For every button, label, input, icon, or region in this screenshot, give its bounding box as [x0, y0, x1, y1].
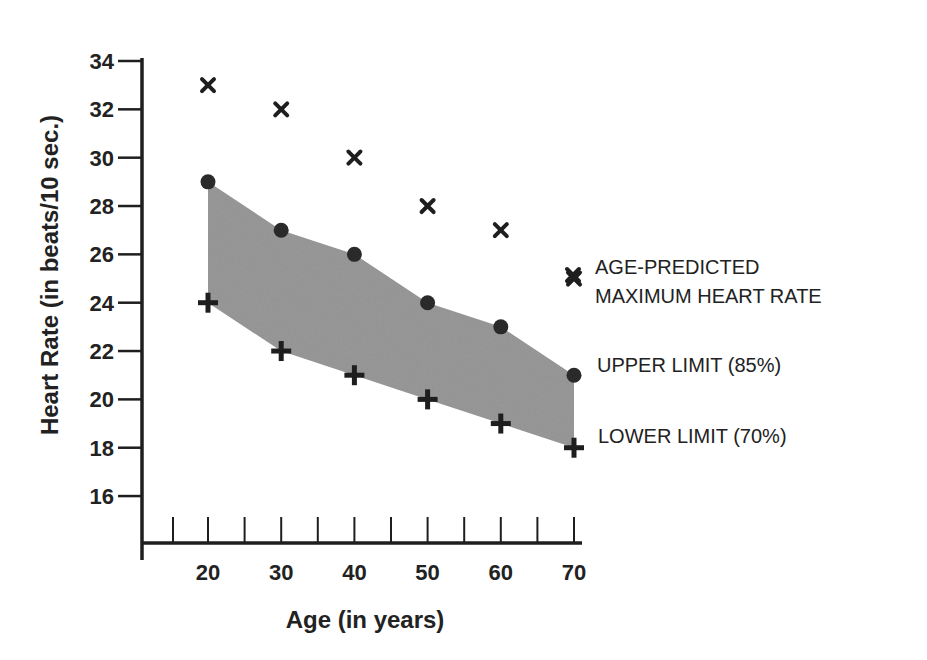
legend-upper-limit: UPPER LIMIT (85%) [597, 354, 781, 376]
y-tick-label: 26 [90, 242, 114, 267]
legend: AGE-PREDICTED MAXIMUM HEART RATE UPPER L… [567, 256, 822, 447]
x-tick-label: 60 [489, 560, 513, 585]
max-hr-x-marker [275, 103, 287, 115]
y-tick-label: 16 [90, 484, 114, 509]
y-tick-label: 28 [90, 194, 114, 219]
max-hr-x-marker [422, 200, 434, 212]
y-tick-label: 20 [90, 387, 114, 412]
y-tick-label: 32 [90, 97, 114, 122]
max-hr-x-marker [202, 79, 214, 91]
x-axis-title: Age (in years) [286, 606, 445, 633]
legend-max-line1: AGE-PREDICTED [595, 256, 759, 278]
y-tick-label: 18 [90, 436, 114, 461]
x-tick-label: 70 [562, 560, 586, 585]
upper-limit-dot-marker [420, 295, 435, 310]
y-tick-label: 24 [90, 291, 115, 316]
upper-limit-dot-marker [347, 247, 362, 262]
y-tick-label: 34 [90, 49, 115, 74]
max-hr-x-marker [495, 224, 507, 236]
x-tick-label: 50 [415, 560, 439, 585]
max-hr-x-marker [348, 152, 360, 164]
upper-limit-dot-marker [201, 174, 216, 189]
upper-limit-dot-marker [493, 319, 508, 334]
upper-limit-dot-marker [274, 223, 289, 238]
y-axis-title: Heart Rate (in beats/10 sec.) [36, 115, 63, 435]
heart-rate-chart: 16182022242628303234203040506070 AGE-PRE… [0, 0, 927, 660]
x-tick-label: 30 [269, 560, 293, 585]
legend-lower-limit: LOWER LIMIT (70%) [598, 425, 787, 447]
y-tick-label: 22 [90, 339, 114, 364]
legend-max-line2: MAXIMUM HEART RATE [595, 285, 822, 307]
band-polygon [208, 182, 574, 448]
target-zone-band [208, 182, 574, 448]
x-tick-label: 40 [342, 560, 366, 585]
x-tick-label: 20 [196, 560, 220, 585]
upper-limit-dot-marker [567, 368, 582, 383]
y-tick-label: 30 [90, 146, 114, 171]
